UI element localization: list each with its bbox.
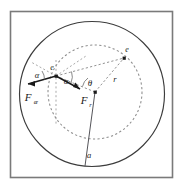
electron-point-left-marker — [55, 75, 58, 78]
electron-left-label: e — [50, 63, 54, 72]
figure-container: e e α α θ r a F æ F r — [0, 0, 183, 189]
focus-point-marker — [94, 91, 97, 94]
semi-major-a-label: a — [87, 150, 91, 160]
electron-point-right-marker — [123, 57, 126, 60]
angle-theta-label: θ — [88, 78, 93, 88]
force-r-symbol: F — [80, 94, 88, 106]
electron-right-label: e — [125, 45, 129, 54]
diagram-canvas: e e α α θ r a F æ F r — [0, 0, 183, 189]
angle-alpha-left-label: α — [35, 70, 40, 80]
angle-alpha-right-label: α — [64, 76, 69, 86]
force-ae-symbol: F — [24, 91, 32, 103]
force-ae-subscript: æ — [34, 98, 39, 105]
